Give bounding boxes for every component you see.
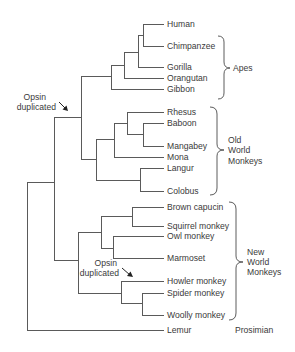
branch-capucin-squirrel <box>101 207 164 226</box>
annotation-opsin-line2: duplicated <box>80 268 119 278</box>
leaf-label-marmoset: Marmoset <box>167 253 206 263</box>
new-world-monkeys-bracket <box>229 202 243 320</box>
group-label-owm-line2: World <box>228 145 251 155</box>
annotation-opsin-line2: duplicated <box>17 102 56 112</box>
branch-owm <box>81 139 96 180</box>
group-label-nwm-line3: Monkeys <box>247 267 281 277</box>
leaf-label-howler-monkey: Howler monkey <box>167 276 227 286</box>
group-label-apes: Apes <box>233 63 253 73</box>
branch-spider-woolly <box>121 293 164 315</box>
branch-baboon-mangabey <box>127 123 164 146</box>
arrow-icon <box>59 102 68 111</box>
leaf-label-mangabey: Mangabey <box>167 141 208 151</box>
branch-root <box>27 182 164 330</box>
branch-nwm <box>54 232 78 293</box>
leaf-label-lemur: Lemur <box>167 325 191 335</box>
branch-cercopithecines <box>96 123 164 157</box>
leaf-label-mona: Mona <box>167 152 189 162</box>
leaf-label-langur: Langur <box>167 163 194 173</box>
apes-bracket <box>218 36 230 99</box>
annotation-opsin-line1: Opsin <box>24 92 47 102</box>
annotation-opsin-howler: Opsin duplicated <box>80 258 133 278</box>
branch-owl-marmoset <box>101 236 164 258</box>
leaf-label-colobus: Colobus <box>167 186 199 196</box>
annotation-opsin-anthropoid: Opsin duplicated <box>17 92 68 112</box>
leaf-label-chimpanzee: Chimpanzee <box>167 41 215 51</box>
group-label-owm-line1: Old <box>228 135 242 145</box>
branch-apes <box>81 65 164 89</box>
leaf-label-spider-monkey: Spider monkey <box>167 288 225 298</box>
arrow-icon <box>122 268 133 277</box>
old-world-monkeys-bracket <box>210 107 224 195</box>
leaf-label-gibbon: Gibbon <box>167 84 195 94</box>
group-label-owm-line3: Monkeys <box>228 156 262 166</box>
branch-colobines <box>96 168 164 191</box>
branch-cebids <box>78 216 101 248</box>
group-label-nwm-line1: New <box>247 247 265 257</box>
leaf-label-brown-capucin: Brown capucin <box>167 202 224 212</box>
leaf-label-woolly-monkey: Woolly monkey <box>167 310 226 320</box>
branch-african-apes <box>124 35 164 67</box>
group-label-prosimian: Prosimian <box>235 325 273 335</box>
leaf-label-gorilla: Gorilla <box>167 62 192 72</box>
branch-catarrhines <box>54 76 81 159</box>
leaf-label-baboon: Baboon <box>167 118 197 128</box>
leaf-label-rhesus: Rhesus <box>167 107 196 117</box>
leaf-label-human: Human <box>167 19 195 29</box>
leaf-label-squirrel-monkey: Squirrel monkey <box>167 221 230 231</box>
leaf-label-owl-monkey: Owl monkey <box>167 231 215 241</box>
group-label-nwm-line2: World <box>247 257 270 267</box>
tree-branches <box>27 24 164 330</box>
annotation-opsin-line1: Opsin <box>95 258 118 268</box>
branch-atelids <box>78 281 164 303</box>
branch-human-chimp <box>138 24 164 46</box>
leaf-label-orangutan: Orangutan <box>167 73 208 83</box>
phylogenetic-tree: Human Chimpanzee Gorilla Orangutan Gibbo… <box>0 0 295 352</box>
leaf-labels: Human Chimpanzee Gorilla Orangutan Gibbo… <box>167 19 230 335</box>
